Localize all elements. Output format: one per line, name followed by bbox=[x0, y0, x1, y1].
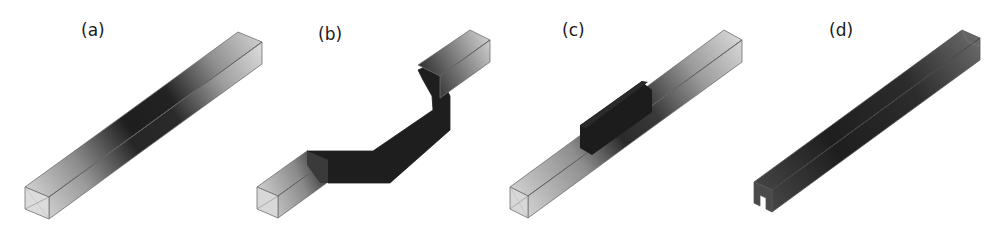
beam-d bbox=[754, 30, 980, 212]
beams-canvas bbox=[0, 0, 1007, 228]
beam-c bbox=[510, 30, 742, 218]
beam-a bbox=[25, 32, 262, 219]
panel-label-c: (c) bbox=[562, 22, 585, 39]
panel-label-b: (b) bbox=[318, 26, 342, 43]
beam-b bbox=[257, 30, 490, 218]
panel-label-d: (d) bbox=[829, 22, 853, 39]
panel-label-a: (a) bbox=[81, 22, 105, 39]
figure-four-beams: (a) (b) (c) (d) bbox=[0, 0, 1007, 228]
